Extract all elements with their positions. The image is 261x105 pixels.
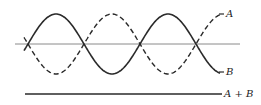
- label-sum: A + B: [223, 88, 253, 99]
- interference-diagram: A B A + B: [0, 0, 261, 105]
- label-b: B: [225, 66, 233, 77]
- label-a: A: [225, 8, 233, 19]
